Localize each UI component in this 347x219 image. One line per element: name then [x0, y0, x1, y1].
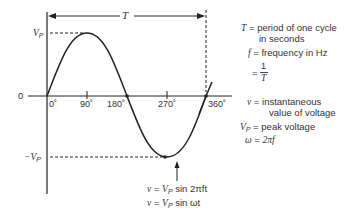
tick-0: 0˚: [49, 99, 57, 109]
tick-180: 180˚: [107, 99, 125, 109]
tick-90: 90˚: [80, 99, 93, 109]
legend-fraction-num: 1: [261, 61, 266, 72]
legend-omega: ω = 2πf: [245, 134, 275, 146]
sine-curve: [47, 33, 212, 157]
tick-270: 270˚: [158, 99, 176, 109]
legend-frequency: f = frequency in Hz: [248, 47, 327, 59]
legend-peak-voltage: VP = peak voltage: [240, 121, 315, 135]
legend-instantaneous-cont: value of voltage: [269, 107, 336, 118]
peak-label: VP: [33, 27, 43, 41]
arrow-left-icon: [48, 13, 56, 19]
tick-360: 360˚: [208, 99, 226, 109]
period-label: T: [122, 10, 128, 21]
arrow-right-icon: [197, 13, 205, 19]
legend-equals: =: [252, 67, 258, 78]
legend-fraction-den: T: [261, 73, 266, 84]
legend-period-cont: in seconds: [259, 33, 304, 44]
formula-2: v = VP sin ωt: [147, 197, 200, 211]
neg-peak-label: −VP: [24, 151, 41, 165]
arrow-up-icon: [175, 161, 180, 168]
zero-label: 0: [18, 90, 23, 101]
formula-1: v = VP sin 2πft: [147, 183, 207, 197]
